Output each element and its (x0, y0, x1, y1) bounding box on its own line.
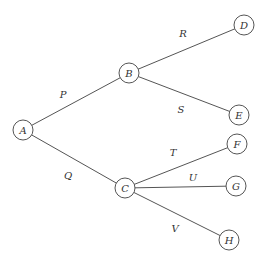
edge-c-g (125, 186, 236, 188)
node-b: B (119, 63, 139, 83)
node-e: E (229, 105, 249, 125)
node-label: E (234, 110, 243, 121)
tree-diagram: PQRSTUV ABCDEFGH (0, 0, 264, 263)
edge-label-s: S (178, 104, 185, 115)
node-label: G (232, 181, 240, 192)
node-label: F (233, 139, 242, 150)
node-label: B (124, 68, 132, 79)
node-label: D (239, 20, 248, 31)
node-g: G (226, 176, 246, 196)
edge-label-r: R (178, 28, 187, 39)
edge-a-b (23, 73, 129, 130)
node-label: C (121, 183, 129, 194)
edge-label-u: U (189, 172, 198, 183)
node-label: A (18, 125, 26, 136)
node-f: F (227, 134, 247, 154)
edge-label-v: V (171, 223, 180, 234)
node-h: H (219, 230, 239, 250)
node-c: C (115, 178, 135, 198)
node-a: A (13, 120, 33, 140)
edge-label-t: T (170, 147, 178, 158)
node-d: D (234, 15, 254, 35)
edge-a-c (23, 130, 125, 188)
edge-labels-layer: PQRSTUV (59, 28, 198, 234)
edge-label-q: Q (64, 170, 72, 181)
edges-layer (23, 25, 244, 240)
nodes-layer: ABCDEFGH (13, 15, 254, 250)
node-label: H (224, 235, 234, 246)
edge-label-p: P (59, 89, 67, 100)
edge-c-f (125, 144, 237, 188)
